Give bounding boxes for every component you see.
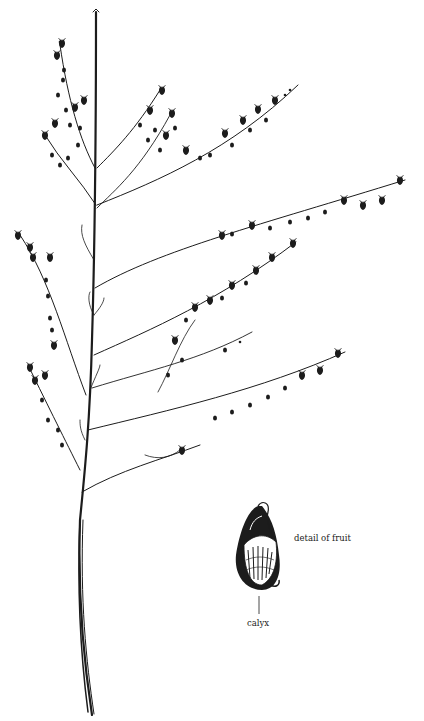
branch-upper-left-2: [42, 95, 97, 205]
main-stem: [79, 9, 99, 715]
branch-left-1: [15, 230, 87, 395]
branch-left-2: [27, 362, 81, 470]
calyx-label: calyx: [247, 618, 269, 628]
branch-right-6: [82, 445, 200, 492]
botanical-illustration: detail of fruit calyx: [0, 0, 424, 721]
branch-upper-right-short: [97, 85, 177, 208]
branch-right-3: [94, 238, 297, 355]
detail-of-fruit-label: detail of fruit: [294, 533, 351, 543]
fruit-detail: [236, 503, 280, 614]
branch-upper-left-1: [54, 38, 96, 168]
branch-right-1: [97, 85, 298, 205]
branch-right-2: [95, 175, 405, 288]
branch-right-4: [92, 320, 252, 392]
branch-right-5: [88, 348, 345, 430]
